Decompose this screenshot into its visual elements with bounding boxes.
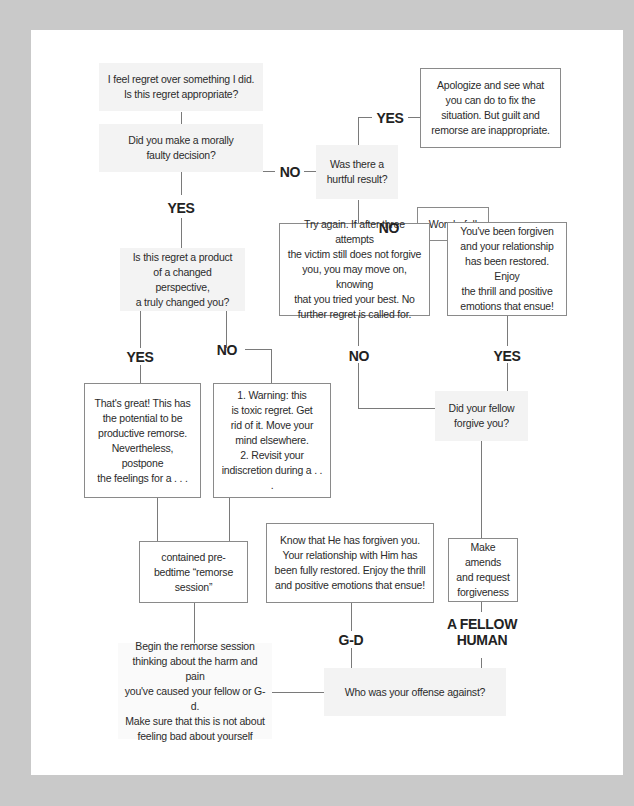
connector: [358, 117, 359, 145]
forgiven-answer: You've been forgivenand your relationshi…: [447, 222, 567, 316]
edge-label-hurtful-yes: YES: [372, 110, 408, 126]
connector: [351, 603, 352, 631]
node-text: that you tried your best. No: [286, 292, 423, 307]
connector: [358, 117, 372, 118]
node-text: You've been forgiven: [454, 224, 560, 239]
connector: [140, 365, 141, 383]
productive-remorse-answer: That's great! This hasthe potential to b…: [84, 383, 201, 498]
node-text: been fully restored. Enjoy the thrill: [275, 563, 426, 578]
edge-label-forgive-yes: YES: [488, 348, 526, 364]
node-text: productive remorse.: [91, 426, 194, 441]
node-text: situation. But guilt and: [431, 108, 550, 123]
label-line: A FELLOW: [440, 616, 524, 632]
node-text: bedtime “remorse: [154, 565, 233, 580]
connector: [271, 349, 272, 383]
connector: [272, 692, 324, 693]
connector: [358, 408, 435, 409]
connector: [194, 603, 195, 643]
edge-label-hurtful-no: NO: [374, 220, 404, 236]
node-text: remorse are inappropriate.: [431, 123, 550, 138]
node-text: and positive emotions that ensue!: [275, 578, 426, 593]
node-text: forgive you?: [449, 416, 515, 431]
node-text: emotions that ensue!: [454, 299, 560, 314]
node-text: Make amends: [455, 540, 511, 570]
connector: [358, 363, 359, 408]
connector: [304, 171, 316, 172]
node-text: you've caused your fellow or G-d.: [124, 684, 266, 714]
node-text: the thrill and positive: [454, 284, 560, 299]
node-text: mind elsewhere.: [220, 433, 324, 448]
node-text: is toxic regret. Get: [220, 403, 324, 418]
fellow-forgive-question: Did your fellowforgive you?: [435, 391, 528, 441]
god-forgiven-answer: Know that He has forgiven you.Your relat…: [266, 523, 434, 603]
node-text: Was there a: [327, 157, 388, 172]
edge-label-offense-god: G-D: [334, 632, 368, 648]
node-text: Make sure that this is not about: [124, 714, 266, 729]
node-text: 2. Revisit your: [220, 448, 324, 463]
start-question: I feel regret over something I did.Is th…: [99, 63, 263, 111]
changed-perspective-question: Is this regret a productof a changed per…: [120, 248, 245, 311]
try-again-answer: Try again. If after three attemptsthe vi…: [279, 223, 430, 316]
connector: [181, 112, 182, 124]
node-text: the victim still does not forgive: [286, 247, 423, 262]
node-text: Did you make a morally: [128, 133, 233, 148]
toxic-regret-answer: 1. Warning: thisis toxic regret. Getrid …: [213, 383, 331, 498]
connector: [408, 117, 420, 118]
edge-label-changed-no: NO: [212, 342, 242, 358]
edge-label-changed-yes: YES: [121, 349, 159, 365]
label-line: HUMAN: [440, 632, 524, 648]
node-text: Nevertheless, postpone: [91, 441, 194, 471]
node-text: 1. Warning: this: [220, 388, 324, 403]
connector: [181, 218, 182, 248]
node-text: Is this regret a product: [126, 250, 239, 265]
node-text: Know that He has forgiven you.: [275, 533, 426, 548]
connector: [481, 658, 482, 668]
node-text: thinking about the harm and pain: [124, 654, 266, 684]
connector: [263, 171, 275, 172]
node-text: Begin the remorse session: [124, 639, 266, 654]
node-text: indiscretion during a . . .: [220, 463, 324, 493]
node-text: Your relationship with Him has: [275, 548, 426, 563]
node-text: Is this regret appropriate?: [108, 87, 255, 102]
connector: [229, 498, 230, 541]
moral-decision-question: Did you make a morallyfaulty decision?: [99, 124, 263, 172]
edge-label-moral-yes: YES: [162, 200, 200, 216]
connector: [181, 172, 182, 195]
node-text: Who was your offense against?: [345, 685, 486, 700]
node-text: hurtful result?: [327, 172, 388, 187]
node-text: session”: [154, 580, 233, 595]
connector: [140, 311, 141, 348]
make-amends-answer: Make amendsand requestforgiveness: [448, 538, 518, 602]
hurtful-result-question: Was there ahurtful result?: [316, 145, 398, 199]
connector: [157, 498, 158, 541]
connector: [481, 602, 482, 612]
node-text: further regret is called for.: [286, 307, 423, 322]
node-text: contained pre-: [154, 550, 233, 565]
connector: [245, 349, 271, 350]
edge-label-offense-human: A FELLOW HUMAN: [440, 616, 524, 648]
node-text: the feelings for a . . .: [91, 471, 194, 486]
node-text: and request: [455, 570, 511, 585]
connector: [351, 648, 352, 668]
apologize-answer: Apologize and see whatyou can do to fix …: [420, 68, 561, 148]
node-text: you can do to fix the: [431, 93, 550, 108]
node-text: That's great! This has: [91, 396, 194, 411]
connector: [507, 363, 508, 391]
node-text: forgiveness: [455, 585, 511, 600]
node-text: a truly changed you?: [126, 295, 239, 310]
node-text: Apologize and see what: [431, 78, 550, 93]
node-text: has been restored. Enjoy: [454, 254, 560, 284]
offense-question: Who was your offense against?: [324, 668, 506, 716]
node-text: rid of it. Move your: [220, 418, 324, 433]
edge-label-forgive-no: NO: [344, 348, 374, 364]
node-text: you, you may move on, knowing: [286, 262, 423, 292]
connector: [507, 316, 508, 346]
node-text: faulty decision?: [128, 148, 233, 163]
begin-session-answer: Begin the remorse sessionthinking about …: [118, 643, 272, 739]
connector: [481, 441, 482, 538]
node-text: feeling bad about yourself: [124, 729, 266, 744]
node-text: and your relationship: [454, 239, 560, 254]
node-text: the potential to be: [91, 411, 194, 426]
remorse-session-answer: contained pre-bedtime “remorsesession”: [139, 541, 248, 603]
node-text: Did your fellow: [449, 401, 515, 416]
